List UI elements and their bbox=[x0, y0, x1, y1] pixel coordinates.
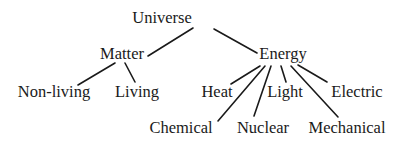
edge-energy-heat bbox=[231, 66, 260, 84]
node-electric: Electric bbox=[331, 84, 382, 101]
edge-universe-energy bbox=[214, 29, 257, 53]
node-matter: Matter bbox=[100, 46, 144, 63]
node-living: Living bbox=[115, 84, 159, 101]
node-mechanical: Mechanical bbox=[309, 120, 386, 137]
tree-diagram: Universe Matter Energy Non-living Living… bbox=[0, 0, 404, 144]
edge-universe-matter bbox=[148, 28, 193, 56]
edge-matter-living bbox=[125, 63, 135, 82]
node-universe: Universe bbox=[132, 10, 192, 27]
node-nuclear: Nuclear bbox=[237, 120, 289, 137]
node-non-living: Non-living bbox=[18, 84, 90, 101]
node-heat: Heat bbox=[201, 84, 232, 101]
node-chemical: Chemical bbox=[149, 120, 212, 137]
edge-energy-light bbox=[281, 66, 286, 82]
node-light: Light bbox=[267, 84, 303, 101]
node-energy: Energy bbox=[259, 46, 306, 63]
